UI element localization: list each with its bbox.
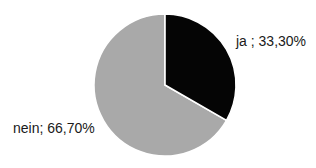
pie-label-ja: ja ; 33,30% xyxy=(236,33,306,49)
pie-chart: ja ; 33,30% nein; 66,70% xyxy=(0,0,316,168)
pie-chart-canvas xyxy=(0,0,316,168)
pie-label-nein: nein; 66,70% xyxy=(13,120,95,136)
pie-slices xyxy=(94,14,236,156)
